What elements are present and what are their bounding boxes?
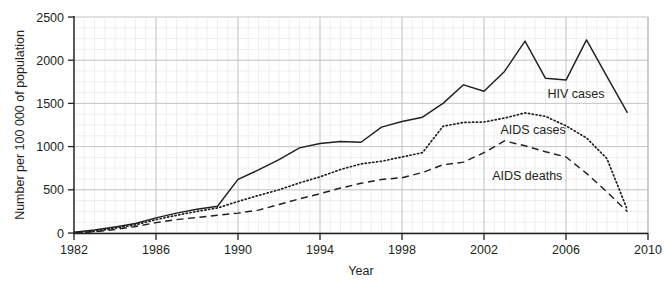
y-axis-tick-labels: 05001000150020002500 (36, 11, 64, 241)
x-axis-tick-label: 2006 (552, 243, 580, 257)
x-axis-title: Year (348, 264, 373, 278)
aids-deaths-label: AIDS deaths (492, 169, 562, 183)
y-axis-tick-label: 2000 (36, 54, 64, 68)
y-axis-tick-label: 1000 (36, 140, 64, 154)
x-axis-tick-label: 2002 (470, 243, 498, 257)
chart-container: 05001000150020002500 1982198619901994199… (0, 0, 671, 287)
x-axis-tick-label: 1994 (306, 243, 334, 257)
hiv-aids-line-chart: 05001000150020002500 1982198619901994199… (0, 0, 671, 287)
x-axis-tick-label: 1982 (60, 243, 88, 257)
x-axis-tick-label: 1990 (224, 243, 252, 257)
y-axis-tick-label: 2500 (36, 11, 64, 25)
aids-cases-label: AIDS cases (500, 123, 565, 137)
x-axis-tick-label: 1998 (388, 243, 416, 257)
y-axis-ticks (68, 17, 74, 233)
hiv-cases-label: HIV cases (548, 87, 605, 101)
x-axis-tick-label: 2010 (634, 243, 662, 257)
y-axis-tick-label: 1500 (36, 97, 64, 111)
x-axis-tick-label: 1986 (142, 243, 170, 257)
y-axis-tick-label: 500 (43, 183, 64, 197)
y-axis-title: Number per 100 000 of population (13, 30, 27, 220)
x-axis-tick-labels: 19821986199019941998200220062010 (60, 243, 662, 257)
y-axis-tick-label: 0 (57, 227, 64, 241)
